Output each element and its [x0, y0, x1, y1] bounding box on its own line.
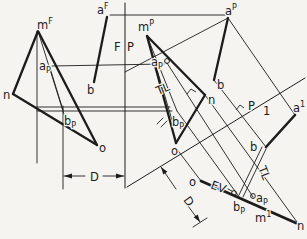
tick-mark-1	[157, 118, 163, 124]
label-EV: EV	[209, 178, 228, 197]
label-b-P-profile: bP	[172, 115, 184, 131]
label-o-aux: o	[189, 175, 196, 189]
label-fold-P2: P	[248, 99, 255, 113]
label-n-aux: n	[297, 219, 304, 233]
label-m-1: m1	[255, 210, 271, 225]
label-fold-F: F	[114, 40, 121, 54]
true-length-line-aux	[266, 115, 295, 147]
label-n-front: n	[3, 88, 10, 102]
tick-D-aux-end	[193, 218, 207, 227]
label-a-1: a1	[293, 100, 305, 115]
edge-mn-front	[13, 31, 38, 94]
descriptive-geometry-diagram: aFmFnaPbbPoDFPmPaPbnobPaPTLP1a1bTLEVobPa…	[0, 0, 307, 239]
label-b-P-front: bP	[64, 114, 76, 130]
label-b-P-aux: bP	[233, 200, 245, 216]
label-a-P-profile: aP	[151, 55, 163, 71]
projector-aP-a1	[228, 18, 295, 115]
label-m-F: mF	[37, 17, 53, 32]
label-o-front: o	[99, 141, 106, 155]
diagram-stage: aFmFnaPbbPoDFPmPaPbnobPaPTLP1a1bTLEVobPa…	[0, 0, 307, 239]
leader-EV-dash	[228, 189, 232, 191]
label-b-front: b	[87, 83, 94, 97]
edge-no-profile	[176, 95, 205, 143]
label-a-P-front: aP	[39, 59, 51, 75]
tick-mark-2	[161, 121, 167, 127]
arrowhead-D-front-left	[64, 174, 72, 179]
label-fold-1: 1	[263, 104, 270, 118]
label-a-P-aux: aP	[256, 191, 268, 207]
arrowhead-D-aux-upper	[161, 167, 167, 175]
arrowhead-D-front-right	[116, 174, 124, 179]
line-ab-front	[94, 17, 107, 82]
label-b-profile: b	[217, 78, 224, 92]
label-a-F: aF	[97, 2, 109, 17]
label-b-aux: b	[250, 140, 257, 154]
right-angle-mark-profile	[187, 89, 196, 94]
label-n-profile: n	[208, 93, 215, 107]
label-fold-P: P	[127, 40, 134, 54]
projector-aP-height	[52, 64, 164, 66]
label-o-profile: o	[171, 144, 178, 158]
label-m-P: mP	[138, 19, 154, 34]
label-a-P-top: aP	[225, 3, 237, 18]
line-ab-profile	[214, 18, 228, 80]
label-TL-profile: TL	[153, 80, 172, 99]
point-marker-aP-aux	[251, 194, 256, 199]
label-D-front: D	[90, 170, 99, 184]
